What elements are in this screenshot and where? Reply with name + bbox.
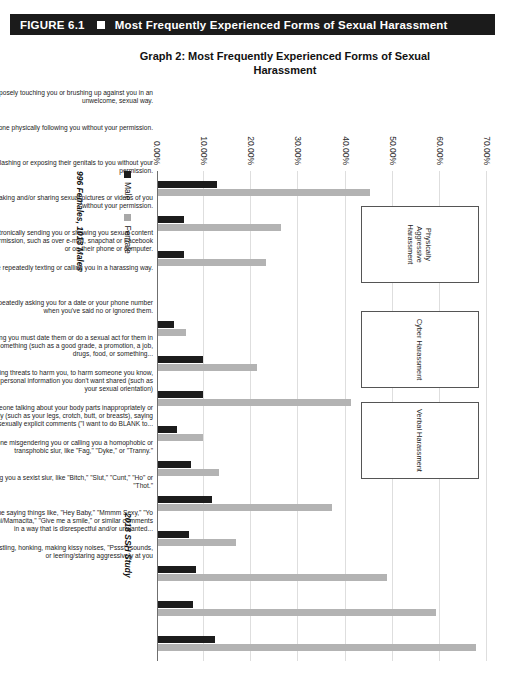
square-bullet-icon xyxy=(97,21,105,29)
bar-male xyxy=(158,601,193,608)
figure-number: FIGURE 6.1 xyxy=(10,19,85,31)
y-axis-tick-label: 30.00% xyxy=(293,136,303,165)
gridline xyxy=(156,171,157,661)
y-axis-tick-label: 60.00% xyxy=(435,136,445,165)
bar-group: Someone calling you a sexist slur, like … xyxy=(158,556,487,591)
category-label: Someone talking about your body parts in… xyxy=(0,404,153,428)
category-label: Someone misgendering you or calling you … xyxy=(0,439,153,455)
plot-area: 0.00%10.00%20.00%30.00%40.00%50.00%60.00… xyxy=(157,171,487,661)
bar-female xyxy=(158,364,257,371)
group-annotation-box: Physically Aggressive Harassment xyxy=(361,206,479,283)
category-label: Someone physically following you without… xyxy=(0,124,153,132)
bar-male xyxy=(158,566,196,573)
legend-label-male: Male xyxy=(123,182,133,200)
group-annotation-label: Physically Aggressive Harassment xyxy=(407,213,434,277)
figure-title: Most Frequently Experienced Forms of Sex… xyxy=(115,19,448,31)
chart-title: Graph 2: Most Frequently Experienced For… xyxy=(135,49,435,77)
category-label: Someone saying you must date them or do … xyxy=(0,334,153,358)
bar-male xyxy=(158,321,175,328)
y-axis-tick-label: 10.00% xyxy=(199,136,209,165)
chart-legend: Male Female xyxy=(123,171,133,254)
bar-female xyxy=(158,224,281,231)
source-note: 2018 SSH Study xyxy=(123,513,133,578)
y-axis-tick-label: 40.00% xyxy=(341,136,351,165)
bar-female xyxy=(158,469,219,476)
group-annotation-box: Cyber Harassment xyxy=(361,311,479,388)
bar-male xyxy=(158,251,184,258)
bar-male xyxy=(158,496,212,503)
legend-label-female: Female xyxy=(123,225,133,253)
bar-female xyxy=(158,504,332,511)
bar-female xyxy=(158,644,476,651)
bar-group: Someone saying things like, "Hey Baby," … xyxy=(158,591,487,626)
chart-container: Graph 2: Most Frequently Experienced For… xyxy=(0,43,505,683)
bar-group: Someone purposely touching you or brushi… xyxy=(158,171,487,206)
legend-swatch-female-icon xyxy=(125,214,132,221)
y-axis-tick-label: 50.00% xyxy=(388,136,398,165)
bar-male xyxy=(158,636,215,643)
bar-female xyxy=(158,574,387,581)
y-axis-tick-label: 20.00% xyxy=(246,136,256,165)
bar-male xyxy=(158,426,177,433)
bar-female xyxy=(158,539,236,546)
bar-male xyxy=(158,461,191,468)
bar-female xyxy=(158,259,266,266)
bar-female xyxy=(158,609,436,616)
bar-group: Someone whistling, honking, making kissy… xyxy=(158,626,487,661)
bar-male xyxy=(158,391,203,398)
bar-male xyxy=(158,531,189,538)
group-annotation-label: Verbal Harassment xyxy=(416,409,425,473)
plot: Graph 2: Most Frequently Experienced For… xyxy=(0,43,505,683)
bar-group: Someone talking about your body parts in… xyxy=(158,486,487,521)
figure-caption-bar: FIGURE 6.1 Most Frequently Experienced F… xyxy=(10,14,495,35)
legend-swatch-male-icon xyxy=(125,171,132,178)
legend-item-female: Female xyxy=(123,214,133,253)
category-label: Someone repeatedly asking you for a date… xyxy=(0,299,153,315)
y-axis-tick-label: 70.00% xyxy=(482,136,492,165)
group-annotation-box: Verbal Harassment xyxy=(361,402,479,479)
bar-group: Someone misgendering you or calling you … xyxy=(158,521,487,556)
bar-female xyxy=(158,399,351,406)
sample-note: 996 Females, 1013 Males xyxy=(75,171,85,271)
category-label: Someone calling you a sexist slur, like … xyxy=(0,474,153,490)
chart-rotated-frame: Graph 2: Most Frequently Experienced For… xyxy=(50,43,505,663)
bar-male xyxy=(158,356,203,363)
bar-female xyxy=(158,329,186,336)
y-axis-tick-label: 0.00% xyxy=(152,141,162,165)
group-annotation-label: Cyber Harassment xyxy=(416,318,425,382)
category-label: Someone purposely touching you or brushi… xyxy=(0,89,153,105)
legend-item-male: Male xyxy=(123,171,133,200)
category-label: Someone making threats to harm you, to h… xyxy=(0,369,153,393)
bar-male xyxy=(158,216,184,223)
bar-female xyxy=(158,434,203,441)
bar-male xyxy=(158,181,217,188)
bar-female xyxy=(158,189,370,196)
